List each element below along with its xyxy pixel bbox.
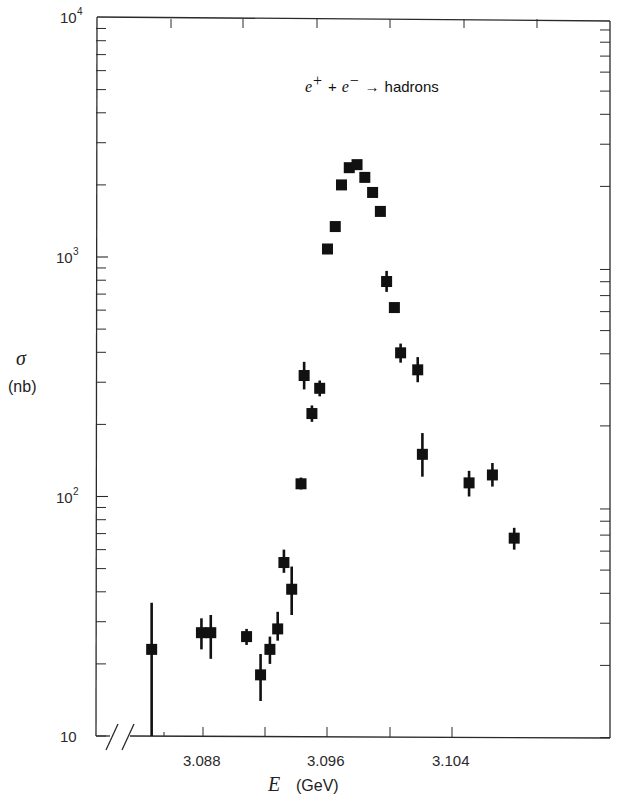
square-marker [278, 557, 289, 568]
data-point [322, 243, 333, 254]
square-marker [241, 631, 252, 642]
data-point [359, 172, 370, 183]
square-marker [314, 383, 325, 394]
square-marker [296, 478, 307, 489]
data-point [241, 629, 252, 645]
data-point [278, 550, 289, 573]
square-marker [381, 276, 392, 287]
chart-title: e++e−→hadrons [305, 72, 439, 95]
y-tick-label-exp: 4 [77, 6, 83, 17]
axis-break-mark [106, 724, 118, 750]
data-series [146, 159, 520, 736]
x-axis-label: E (GeV) [267, 773, 339, 795]
title-reaction: e++e−→hadrons [305, 72, 439, 95]
square-marker [464, 477, 475, 488]
square-marker [417, 449, 428, 460]
square-marker [286, 584, 297, 595]
x-axis-symbol: E [267, 773, 280, 795]
square-marker [352, 159, 363, 170]
data-point [264, 637, 275, 664]
data-point [146, 603, 157, 736]
data-point [375, 206, 386, 217]
resonance-plot: 10 10 2 10 3 10 4 3.088 3.096 3.104 E (G… [0, 0, 618, 797]
square-marker [359, 172, 370, 183]
data-point [367, 187, 378, 198]
data-point [487, 463, 498, 487]
square-marker [146, 644, 157, 655]
top-border [97, 17, 610, 21]
y-tick-label-base: 10 [56, 489, 73, 506]
square-marker [272, 623, 283, 634]
y-axis-ticks [96, 28, 610, 737]
left-border [96, 17, 97, 736]
data-point [299, 362, 310, 390]
square-marker [412, 364, 423, 375]
data-point [314, 381, 325, 397]
x-tick-label-3104: 3.104 [432, 752, 470, 769]
data-point [296, 478, 307, 490]
y-tick-label-10: 10 [60, 728, 77, 745]
square-marker [205, 627, 216, 638]
data-point [509, 528, 520, 550]
y-tick-label-10000: 10 4 [60, 6, 83, 26]
square-marker [375, 206, 386, 217]
data-point [272, 612, 283, 641]
y-axis-label: σ (nb) [8, 347, 36, 395]
x-tick-label-3088: 3.088 [183, 752, 221, 769]
data-point [205, 615, 216, 659]
x-axis-ticks [164, 19, 537, 737]
square-marker [322, 243, 333, 254]
y-tick-label-exp: 3 [73, 246, 79, 257]
y-tick-label-base: 10 [60, 9, 77, 26]
data-point [306, 405, 317, 421]
square-marker [299, 370, 310, 381]
square-marker [509, 533, 520, 544]
square-marker [395, 347, 406, 358]
y-tick-label-base: 10 [60, 728, 77, 745]
square-marker [255, 669, 266, 680]
data-point [255, 654, 266, 701]
square-marker [336, 179, 347, 190]
data-point [412, 357, 423, 382]
y-axis-symbol: σ [16, 347, 27, 369]
square-marker [330, 221, 341, 232]
y-axis-unit: (nb) [8, 378, 36, 395]
y-tick-label-exp: 2 [73, 486, 79, 497]
data-point [336, 179, 347, 190]
data-point [417, 433, 428, 477]
bottom-border-right [130, 736, 610, 738]
data-point [330, 221, 341, 232]
square-marker [367, 187, 378, 198]
axis-break-mark [122, 724, 134, 750]
square-marker [264, 644, 275, 655]
data-point [286, 567, 297, 615]
data-point [352, 159, 363, 170]
data-point [389, 302, 400, 313]
x-axis-unit: (GeV) [296, 777, 339, 794]
square-marker [306, 408, 317, 419]
plot-frame [96, 17, 610, 750]
y-tick-label-100: 10 2 [56, 486, 79, 506]
data-point [381, 271, 392, 292]
square-marker [389, 302, 400, 313]
square-marker [487, 469, 498, 480]
data-point [395, 344, 406, 363]
data-point [464, 471, 475, 497]
x-tick-label-3096: 3.096 [307, 752, 345, 769]
y-tick-label-1000: 10 3 [56, 246, 79, 266]
y-tick-label-base: 10 [56, 249, 73, 266]
